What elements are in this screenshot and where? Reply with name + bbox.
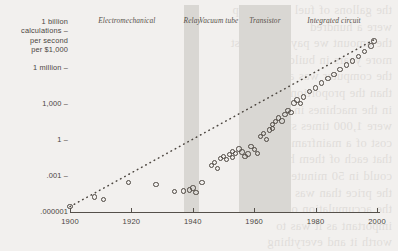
data-point: [350, 58, 355, 63]
x-axis-label-1940: 1940: [173, 217, 213, 226]
data-point: [371, 38, 376, 43]
data-point: [245, 151, 250, 156]
data-point: [298, 101, 303, 106]
x-axis-label-1960: 1960: [234, 217, 274, 226]
data-point: [92, 194, 97, 199]
data-point: [279, 118, 284, 123]
x-axis-tick-2000: [377, 208, 378, 212]
x-axis-label-1980: 1980: [296, 217, 336, 226]
y-axis-label-5: .000001: [0, 207, 68, 217]
y-axis-tick-0: [65, 32, 70, 33]
data-point: [288, 110, 293, 115]
data-point: [255, 151, 260, 156]
y-axis-label-3: 1 –: [0, 135, 68, 145]
x-axis-label-2000: 2000: [357, 217, 397, 226]
data-point: [313, 85, 318, 90]
y-axis-label-0: 1 billion calculations – per second per …: [0, 17, 68, 55]
computing-growth-chart: ElectromechanicalRelayVacuum tubeTransis…: [0, 0, 398, 251]
y-axis-tick-1: [65, 68, 70, 69]
y-axis-label-1: 1 million –: [0, 63, 68, 73]
data-point: [344, 62, 349, 67]
data-point: [153, 182, 158, 187]
y-axis-tick-4: [65, 176, 70, 177]
data-point: [181, 188, 186, 193]
x-axis-line: [70, 212, 380, 213]
y-axis-tick-2: [65, 104, 70, 105]
data-point: [325, 76, 330, 81]
x-axis-label-1900: 1900: [50, 217, 90, 226]
x-axis-tick-1940: [193, 208, 194, 212]
data-point: [212, 160, 217, 165]
data-point: [337, 67, 342, 72]
y-axis-label-4: .001 –: [0, 171, 68, 181]
x-axis-tick-1960: [254, 208, 255, 212]
data-point: [301, 94, 306, 99]
y-axis-label-2: 1,000 –: [0, 99, 68, 109]
x-axis-tick-1900: [70, 208, 71, 212]
x-axis-tick-1920: [131, 208, 132, 212]
data-point: [368, 43, 373, 48]
data-point: [199, 180, 204, 185]
x-axis-tick-1980: [316, 208, 317, 212]
data-point: [215, 166, 220, 171]
x-axis-label-1920: 1920: [111, 217, 151, 226]
data-point: [331, 72, 336, 77]
data-point: [193, 190, 198, 195]
y-axis-tick-3: [65, 140, 70, 141]
